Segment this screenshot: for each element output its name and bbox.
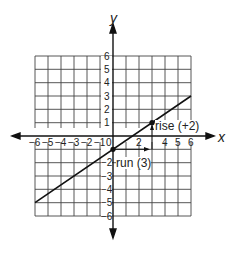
y-tick: 1 [104,118,110,128]
x-tick: −3 [68,138,79,148]
y-tick: 2 [104,105,110,115]
y-tick: 3 [104,92,110,102]
y-tick: −4 [101,185,112,195]
run-annotation: run (3) [116,157,151,169]
x-axis-label: x [218,130,225,144]
y-tick: 4 [104,78,110,88]
x-tick: 0 [106,138,112,148]
y-tick: −5 [101,198,112,208]
x-tick: 6 [188,138,194,148]
y-tick: −6 [101,212,112,222]
x-tick: −2 [81,138,92,148]
coordinate-grid [0,0,240,253]
x-tick: 4 [162,138,168,148]
y-tick: −3 [101,172,112,182]
x-tick: 5 [175,138,181,148]
y-tick: 6 [104,52,110,62]
rise-annotation: rise (+2) [155,120,199,132]
y-tick: 5 [104,65,110,75]
x-tick: −5 [42,138,53,148]
x-tick: −1 [94,138,105,148]
x-tick: −6 [29,138,40,148]
y-tick: −2 [101,158,112,168]
x-tick: −4 [55,138,66,148]
x-tick: 2 [136,138,142,148]
y-axis-label: y [110,11,117,25]
